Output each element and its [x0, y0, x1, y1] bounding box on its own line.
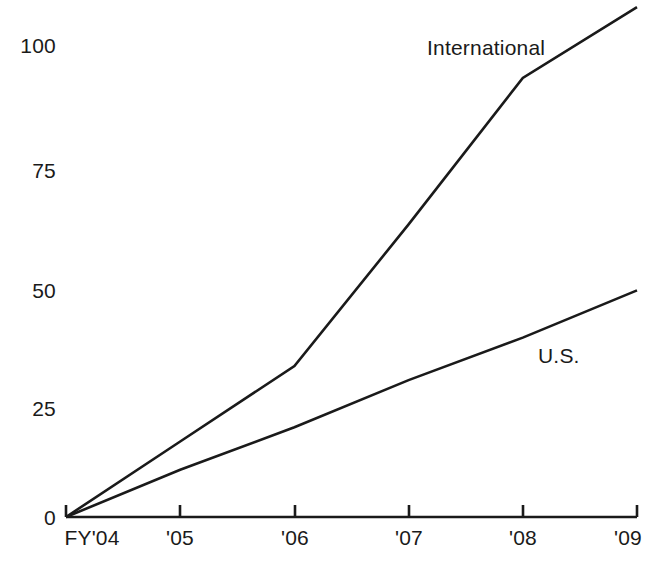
series-label-international: International	[427, 37, 545, 58]
y-tick-label-0: 0	[0, 507, 56, 528]
y-tick-label-100: 100	[0, 35, 56, 56]
x-tick-label-07: '07	[395, 527, 423, 548]
x-tick-label-06: '06	[281, 527, 309, 548]
y-tick-label-75: 75	[0, 160, 56, 181]
series-label-us: U.S.	[538, 345, 580, 366]
x-tick-label-09: '09	[614, 527, 642, 548]
x-tick-label-08: '08	[509, 527, 537, 548]
series-line-international	[66, 7, 637, 517]
series-line-us	[66, 290, 637, 517]
line-chart: 100 75 50 25 0 FY'04 '05 '06 '07 '08 '09…	[0, 0, 657, 573]
y-tick-label-25: 25	[0, 398, 56, 419]
chart-plot-area	[0, 0, 657, 573]
x-axis-ticks	[66, 505, 637, 517]
x-tick-label-05: '05	[166, 527, 194, 548]
y-tick-label-50: 50	[0, 280, 56, 301]
x-tick-label-fy04: FY'04	[64, 527, 119, 548]
